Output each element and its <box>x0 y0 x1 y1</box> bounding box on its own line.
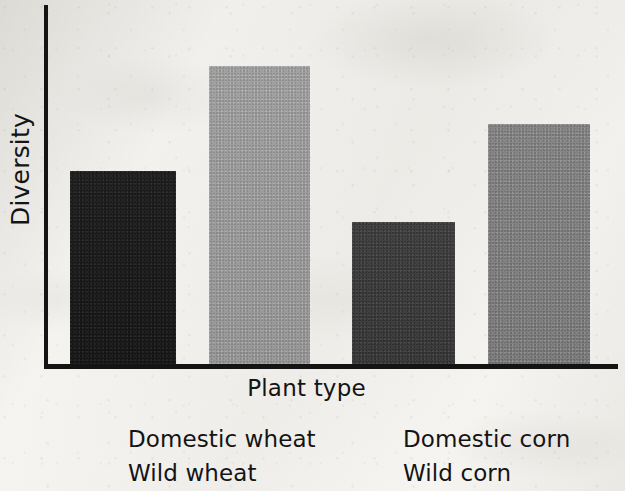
legend-label-wild-corn: Wild corn <box>403 460 511 486</box>
legend-item-domestic-wheat: Domestic wheat <box>78 426 353 452</box>
legend-label-domestic-wheat: Domestic wheat <box>128 426 316 452</box>
legend-label-domestic-corn: Domestic corn <box>403 426 570 452</box>
y-axis-title: Diversity <box>6 110 35 230</box>
bar-domestic-corn <box>352 222 455 366</box>
bar-domestic-wheat <box>70 171 176 366</box>
x-axis-title: Plant type <box>0 375 613 401</box>
legend-item-wild-wheat: Wild wheat <box>78 460 353 486</box>
bar-wild-wheat <box>209 66 310 366</box>
x-axis-line <box>44 364 618 369</box>
legend-swatch-icon-domestic-corn <box>353 429 390 450</box>
legend-swatch-icon-domestic-wheat <box>78 429 115 450</box>
legend-label-wild-wheat: Wild wheat <box>128 460 257 486</box>
plot-area <box>0 0 625 366</box>
y-axis-line <box>44 5 48 368</box>
bar-wild-corn <box>488 124 590 366</box>
chart-legend: Domestic wheat Domestic corn Wild wheat … <box>78 422 603 490</box>
legend-swatch-icon-wild-corn <box>353 463 390 484</box>
legend-item-wild-corn: Wild corn <box>353 460 603 486</box>
legend-item-domestic-corn: Domestic corn <box>353 426 603 452</box>
bar-chart-figure: Diversity Plant type Domestic wheat Dome… <box>0 0 625 491</box>
legend-swatch-icon-wild-wheat <box>78 463 115 484</box>
